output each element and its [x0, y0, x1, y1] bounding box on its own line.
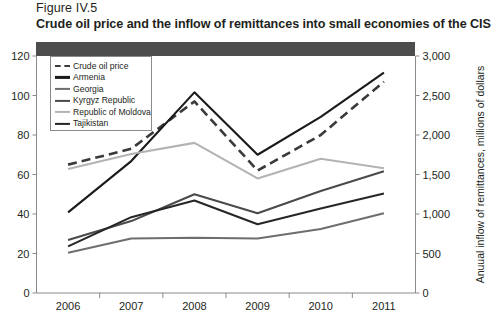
legend-swatch-icon	[55, 118, 70, 129]
y-axis-left-tick-label: 40	[17, 208, 29, 220]
figure-container: Figure IV.5 Crude oil price and the infl…	[0, 0, 497, 329]
legend-swatch-icon	[55, 107, 70, 118]
y-axis-right-title: Anuual inflow of remittances, millions o…	[474, 66, 486, 284]
chart-legend: Crude oil priceArmeniaGeorgiaKyrgyz Repu…	[50, 56, 152, 131]
x-axis-tick-label: 2009	[245, 300, 269, 312]
legend-swatch-icon	[55, 95, 70, 106]
y-axis-right-tick-label: 0	[423, 287, 429, 299]
x-axis-tick-label: 2010	[309, 300, 333, 312]
y-axis-right-tick-label: 3,000	[423, 50, 451, 62]
legend-item-label: Crude oil price	[73, 62, 128, 71]
y-axis-left-tick-label: 60	[17, 169, 29, 181]
legend-item-label: Kyrgyz Republic	[73, 96, 135, 105]
y-axis-right-tick-label: 1,000	[423, 208, 451, 220]
legend-item[interactable]: Crude oil price	[55, 60, 148, 72]
legend-swatch-icon	[55, 83, 70, 94]
legend-item-label: Tajikistan	[73, 119, 108, 128]
y-axis-left-tick-label: 20	[17, 248, 29, 260]
y-axis-left-tick-label: 120	[11, 50, 29, 62]
legend-item[interactable]: Georgia	[55, 83, 148, 95]
y-axis-left-tick-label: 0	[23, 287, 29, 299]
legend-item[interactable]: Republic of Moldova	[55, 106, 148, 118]
y-axis-right-tick-label: 2,000	[423, 129, 451, 141]
legend-item-label: Armenia	[73, 73, 105, 82]
legend-swatch-icon	[55, 72, 70, 83]
series-line-georgia	[68, 213, 384, 253]
x-axis-tick-label: 2007	[119, 300, 143, 312]
x-axis-tick-label: 2011	[372, 300, 396, 312]
y-axis-left-tick-label: 100	[11, 90, 29, 102]
legend-item[interactable]: Tajikistan	[55, 118, 148, 130]
line-chart: 02040608010012005001,0001,5002,0002,5003…	[0, 0, 497, 329]
x-axis-tick-label: 2008	[182, 300, 206, 312]
y-axis-left-tick-label: 80	[17, 129, 29, 141]
legend-item-label: Republic of Moldova	[73, 108, 151, 117]
y-axis-right-tick-label: 1,500	[423, 169, 451, 181]
x-axis-tick-label: 2006	[56, 300, 80, 312]
legend-item[interactable]: Kyrgyz Republic	[55, 95, 148, 107]
legend-item[interactable]: Armenia	[55, 72, 148, 84]
y-axis-right-tick-label: 500	[423, 248, 441, 260]
legend-swatch-icon	[55, 60, 70, 71]
y-axis-right-tick-label: 2,500	[423, 90, 451, 102]
legend-item-label: Georgia	[73, 85, 104, 94]
